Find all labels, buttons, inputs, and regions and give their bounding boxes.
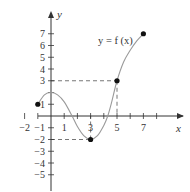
x-tick-label: 3 bbox=[88, 122, 93, 133]
y-tick-label: 7 bbox=[40, 28, 45, 39]
x-tick-label: 7 bbox=[141, 122, 146, 133]
y-tick-label: −2 bbox=[34, 134, 45, 145]
y-tick-label: −5 bbox=[34, 169, 45, 180]
y-axis-arrow-icon bbox=[48, 11, 54, 18]
y-tick-label: −3 bbox=[34, 146, 45, 157]
y-tick-label: −1 bbox=[34, 122, 45, 133]
y-tick-label: 6 bbox=[40, 40, 45, 51]
y-tick-label: −4 bbox=[34, 158, 45, 169]
data-point bbox=[88, 137, 93, 142]
data-point bbox=[35, 102, 40, 107]
data-point bbox=[114, 78, 119, 83]
x-axis-label: x bbox=[175, 122, 181, 134]
function-graph: −21357765431−1−2−3−4−5 x y y = f (x) bbox=[0, 0, 190, 192]
curve-label: y = f (x) bbox=[98, 35, 133, 47]
x-tick-label: 1 bbox=[62, 122, 67, 133]
y-axis-label: y bbox=[56, 8, 62, 20]
y-tick-label: 3 bbox=[40, 75, 45, 86]
data-point bbox=[141, 31, 146, 36]
y-tick-label: 5 bbox=[40, 52, 45, 63]
x-tick-label: −2 bbox=[19, 122, 30, 133]
y-tick-label: 4 bbox=[40, 64, 45, 75]
x-axis-arrow-icon bbox=[177, 113, 184, 119]
x-tick-label: 5 bbox=[115, 122, 120, 133]
